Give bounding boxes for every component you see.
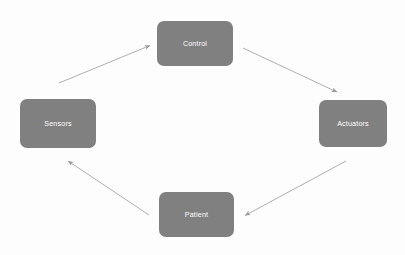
arrow-sensors-to-control [59,46,150,84]
node-patient-label: Patient [185,211,208,218]
node-sensors[interactable]: Sensors [20,99,96,148]
node-patient[interactable]: Patient [159,192,234,237]
node-control[interactable]: Control [157,21,233,66]
node-actuators-label: Actuators [337,120,369,127]
diagram-canvas: Control Actuators Patient Sensors [0,0,405,255]
node-sensors-label: Sensors [44,120,71,127]
node-actuators[interactable]: Actuators [319,100,387,147]
node-control-label: Control [183,40,207,47]
arrow-actuators-to-patient [245,161,346,216]
arrow-patient-to-sensors [68,161,149,215]
arrow-control-to-actuators [243,48,337,92]
